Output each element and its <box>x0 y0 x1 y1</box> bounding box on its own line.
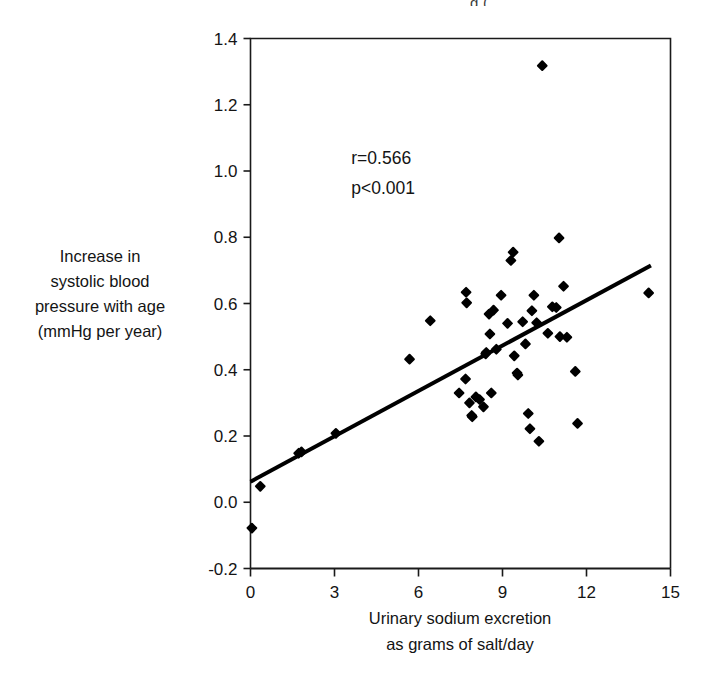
data-point <box>571 367 580 376</box>
y-tick-label: 1.4 <box>214 30 238 49</box>
data-point <box>528 306 537 315</box>
y-tick-label: 1.2 <box>214 96 238 115</box>
data-point <box>405 355 414 364</box>
data-point <box>559 282 568 291</box>
x-tick-label: 3 <box>330 583 339 602</box>
data-point <box>573 419 582 428</box>
plot-border <box>251 39 671 569</box>
x-tick-label: 12 <box>577 583 596 602</box>
y-tick-label: 0.0 <box>214 493 238 512</box>
stat-annotation: p<0.001 <box>351 178 415 198</box>
data-point <box>507 256 516 265</box>
axis-frame <box>251 39 671 569</box>
data-point <box>535 437 544 446</box>
data-point <box>563 333 572 342</box>
data-point <box>462 288 471 297</box>
y-tick-label: 1.0 <box>214 162 238 181</box>
data-point <box>461 375 470 384</box>
y-axis-ticks: -0.20.00.20.40.60.81.01.21.4 <box>208 30 250 579</box>
data-point <box>248 524 257 533</box>
stat-annotation: r=0.566 <box>351 148 411 168</box>
x-tick-label: 0 <box>246 583 255 602</box>
stat-annotations: r=0.566p<0.001 <box>351 148 415 198</box>
y-tick-label: 0.4 <box>214 361 238 380</box>
scatter-plot-figure: g ( Increase in systolic blood pressure … <box>0 0 705 683</box>
data-point <box>455 389 464 398</box>
y-tick-label: -0.2 <box>208 560 237 579</box>
x-tick-label: 15 <box>661 583 680 602</box>
data-point <box>462 299 471 308</box>
data-point <box>486 330 495 339</box>
data-point <box>544 329 553 338</box>
data-point <box>518 317 527 326</box>
data-point <box>465 399 474 408</box>
data-point <box>644 289 653 298</box>
data-point <box>530 291 539 300</box>
data-point <box>509 248 518 257</box>
data-point <box>524 409 533 418</box>
data-point <box>510 352 519 361</box>
data-point <box>521 340 530 349</box>
x-axis-ticks: 03691215 <box>246 569 680 602</box>
data-point <box>487 389 496 398</box>
x-tick-label: 9 <box>498 583 507 602</box>
data-point <box>538 61 547 70</box>
data-point <box>256 482 265 491</box>
plot-canvas: -0.20.00.20.40.60.81.01.21.4 03691215 r=… <box>0 0 705 683</box>
trendline <box>251 265 651 481</box>
y-tick-label: 0.2 <box>214 427 238 446</box>
data-point <box>503 319 512 328</box>
data-point <box>555 234 564 243</box>
regression-trendline <box>251 265 651 481</box>
x-tick-label: 6 <box>414 583 423 602</box>
data-point <box>426 316 435 325</box>
data-point <box>497 291 506 300</box>
data-point <box>526 424 535 433</box>
y-tick-label: 0.6 <box>214 295 238 314</box>
y-tick-label: 0.8 <box>214 228 238 247</box>
